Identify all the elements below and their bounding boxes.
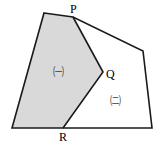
vertex-label-r: R [59, 131, 67, 143]
geometry-figure: P Q R ㈠ ㈡ [0, 0, 162, 148]
vertex-label-q: Q [106, 68, 115, 80]
region-label-gi: ㈠ [53, 67, 64, 78]
region-label-ni: ㈡ [110, 96, 121, 107]
figure-canvas [0, 0, 162, 148]
vertex-label-p: P [70, 3, 77, 15]
